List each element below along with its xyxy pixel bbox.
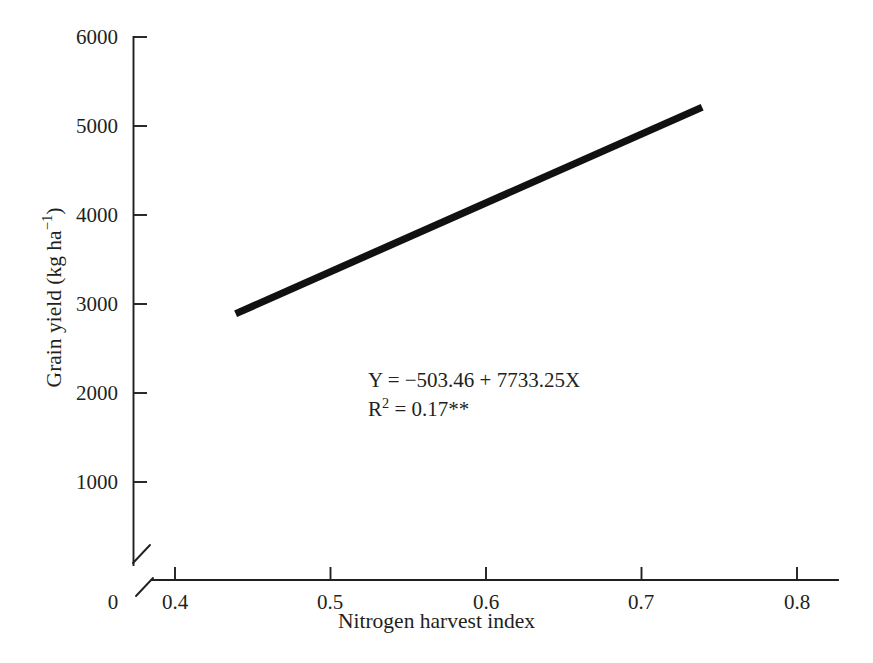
- r-symbol: R: [368, 397, 382, 421]
- y-axis-title-tail: ): [42, 208, 66, 215]
- x-axis-title: Nitrogen harvest index: [0, 609, 873, 634]
- y-tick-label-3000: 3000: [20, 294, 118, 315]
- chart-figure: 6000 5000 4000 3000 2000 1000 0 0.4 0.5 …: [0, 0, 873, 663]
- r-value: = 0.17: [389, 397, 448, 421]
- regression-trend-line: [236, 107, 703, 313]
- y-tick-label-4000: 4000: [20, 205, 118, 226]
- plot-area: [0, 0, 873, 663]
- y-tick-label-5000: 5000: [20, 116, 118, 137]
- y-axis-title: Grain yield (kg ha−1): [42, 88, 67, 508]
- r-squared-line: R2 = 0.17**: [368, 395, 580, 424]
- y-axis-title-superscript: −1: [39, 215, 55, 231]
- axis-break-upper-icon: [133, 545, 150, 563]
- regression-annotation: Y = −503.46 + 7733.25X R2 = 0.17**: [368, 366, 580, 424]
- y-tick-label-1000: 1000: [20, 472, 118, 493]
- axis-break-lower-icon: [136, 578, 153, 596]
- regression-equation-line: Y = −503.46 + 7733.25X: [368, 366, 580, 395]
- y-axis-title-main: Grain yield (kg ha: [42, 230, 66, 387]
- y-tick-label-2000: 2000: [20, 383, 118, 404]
- y-tick-label-6000: 6000: [20, 27, 118, 48]
- significance-marker: **: [448, 397, 469, 421]
